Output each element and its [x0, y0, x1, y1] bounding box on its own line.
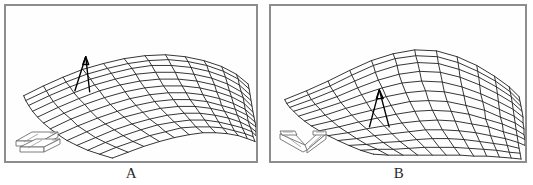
fold-block-diagram-anticline-icon	[12, 125, 64, 157]
panel-a: A	[0, 0, 263, 185]
fold-block-diagram-syncline-icon	[277, 125, 329, 157]
panel-b: B	[265, 0, 533, 185]
figure-container: A	[0, 0, 533, 185]
panel-b-caption: B	[265, 165, 533, 182]
panel-a-caption: A	[0, 165, 263, 182]
panel-a-frame	[4, 4, 258, 163]
fold-axis-arrow-marker-a	[75, 57, 90, 92]
panel-b-frame	[269, 4, 527, 163]
